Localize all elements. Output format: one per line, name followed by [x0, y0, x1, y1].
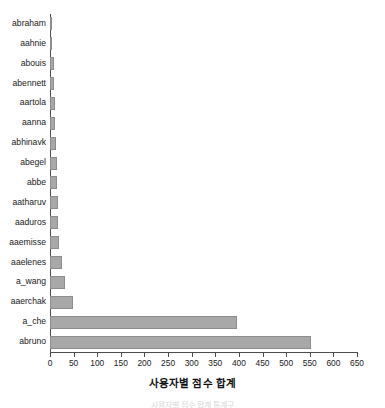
- y-axis-tick-label: aartola: [0, 98, 46, 107]
- plot-area: [50, 14, 357, 352]
- y-axis-tick-label: abouis: [0, 59, 46, 68]
- x-axis-tick-label: 450: [256, 358, 270, 368]
- bar: [50, 117, 55, 130]
- x-axis-tick-mark: [97, 353, 98, 357]
- bar: [50, 216, 58, 229]
- bar-row: [50, 272, 65, 292]
- bar: [50, 77, 54, 90]
- y-axis-tick-label: abennett: [0, 79, 46, 88]
- x-axis-ticks: 050100150200250300350400450500550600650: [50, 353, 358, 371]
- x-axis-tick-label: 600: [326, 358, 340, 368]
- x-axis-tick-label: 400: [232, 358, 246, 368]
- y-axis-tick-label: a_wang: [0, 277, 46, 286]
- x-axis-tick-label: 300: [185, 358, 199, 368]
- clipped-bottom-caption: 사용자별 점수 합계 통계구: [0, 400, 385, 408]
- x-axis-tick-mark: [144, 353, 145, 357]
- x-axis-title: 사용자별 점수 합계: [0, 375, 385, 390]
- bar: [50, 296, 73, 309]
- x-axis-tick-label: 500: [279, 358, 293, 368]
- x-axis-tick-mark: [50, 353, 51, 357]
- y-axis-tick-label: aaerchak: [0, 297, 46, 306]
- bar-row: [50, 34, 52, 54]
- x-axis-tick-mark: [333, 353, 334, 357]
- y-axis-tick-label: abraham: [0, 19, 46, 28]
- bar: [50, 316, 237, 329]
- y-axis-tick-labels: abrahamaahnieabouisabennettaartolaaannaa…: [0, 14, 46, 352]
- bar-row: [50, 193, 58, 213]
- x-axis-tick-mark: [263, 353, 264, 357]
- bar: [50, 336, 311, 349]
- bar-row: [50, 173, 57, 193]
- x-axis-tick-mark: [192, 353, 193, 357]
- y-axis-tick-label: aaduros: [0, 218, 46, 227]
- bar: [50, 137, 56, 150]
- bar: [50, 256, 62, 269]
- x-axis-tick-label: 350: [208, 358, 222, 368]
- x-axis-tick-mark: [310, 353, 311, 357]
- x-axis-tick-mark: [168, 353, 169, 357]
- x-axis-tick-label: 100: [90, 358, 104, 368]
- x-axis-tick-mark: [74, 353, 75, 357]
- x-axis-tick-label: 200: [137, 358, 151, 368]
- bar-row: [50, 14, 52, 34]
- x-axis-tick-mark: [215, 353, 216, 357]
- y-axis-tick-label: aanna: [0, 118, 46, 127]
- bar: [50, 17, 52, 30]
- x-axis-tick-mark: [286, 353, 287, 357]
- x-axis-tick-mark: [121, 353, 122, 357]
- bar: [50, 157, 57, 170]
- bar-chart-figure: abrahamaahnieabouisabennettaartolaaannaa…: [0, 0, 385, 408]
- bar-row: [50, 54, 54, 74]
- y-axis-tick-label: a_che: [0, 317, 46, 326]
- bar: [50, 97, 55, 110]
- bar: [50, 196, 58, 209]
- bar-row: [50, 312, 237, 332]
- bar: [50, 236, 59, 249]
- y-axis-tick-label: aahnie: [0, 39, 46, 48]
- y-axis-tick-label: abegel: [0, 158, 46, 167]
- bar-row: [50, 253, 62, 273]
- x-axis-tick-label: 50: [69, 358, 78, 368]
- bar-row: [50, 94, 55, 114]
- x-axis-tick-label: 250: [161, 358, 175, 368]
- x-axis-tick-label: 150: [114, 358, 128, 368]
- y-axis-tick-label: aatharuv: [0, 198, 46, 207]
- x-axis-tick-label: 550: [303, 358, 317, 368]
- bar: [50, 57, 54, 70]
- x-axis-tick-label: 650: [350, 358, 364, 368]
- y-axis-tick-label: aaelenes: [0, 258, 46, 267]
- y-axis-tick-label: aaemisse: [0, 238, 46, 247]
- bar: [50, 176, 57, 189]
- bar-row: [50, 113, 55, 133]
- bar-row: [50, 233, 59, 253]
- x-axis-tick-label: 0: [48, 358, 53, 368]
- y-axis-tick-label: abruno: [0, 337, 46, 346]
- bar-row: [50, 74, 54, 94]
- x-axis-tick-mark: [239, 353, 240, 357]
- bar: [50, 37, 52, 50]
- y-axis-tick-label: abbe: [0, 178, 46, 187]
- y-axis-tick-label: abhinavk: [0, 138, 46, 147]
- bar-row: [50, 133, 56, 153]
- bar-row: [50, 332, 311, 352]
- bar-row: [50, 213, 58, 233]
- x-axis-tick-mark: [357, 353, 358, 357]
- bar-row: [50, 292, 73, 312]
- bar-row: [50, 153, 57, 173]
- bar: [50, 276, 65, 289]
